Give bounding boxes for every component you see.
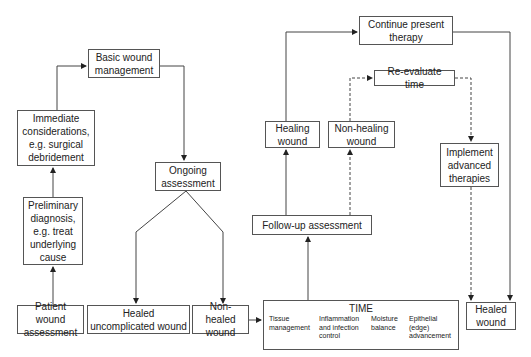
node-healed-uncomplicated-wound: Healed uncomplicated wound <box>87 305 190 334</box>
node-implement-advanced-therapies: Implement advanced therapies <box>440 143 499 187</box>
time-title: TIME <box>264 303 458 315</box>
node-follow-up-assessment: Follow-up assessment <box>252 215 372 235</box>
node-patient-wound-assessment: Patient wound assessment <box>17 305 84 334</box>
node-non-healed-wound: Non-healed wound <box>192 305 249 334</box>
time-item-tissue: Tissue management <box>269 315 313 332</box>
node-ongoing-assessment: Ongoing assessment <box>155 162 221 191</box>
node-re-evaluate-time: Re-evaluate time <box>374 70 455 86</box>
node-healed-wound: Healed wound <box>466 302 516 330</box>
time-framework-box: TIME Tissue management Inflammation and … <box>263 300 459 350</box>
time-item-moisture: Moisture balance <box>371 315 403 332</box>
node-continue-present-therapy: Continue present therapy <box>359 16 453 45</box>
time-item-epithelial: Epithelial (edge) advancement <box>409 315 457 341</box>
node-preliminary-diagnosis: Preliminary diagnosis, e.g. treat underl… <box>23 197 83 265</box>
node-basic-wound-management: Basic wound management <box>88 49 160 78</box>
node-healing-wound: Healing wound <box>265 121 320 148</box>
node-non-healing-wound: Non-healing wound <box>328 121 395 148</box>
time-item-inflammation: Inflammation and infection control <box>319 315 367 341</box>
node-immediate-considerations: Immediate considerations, e.g. surgical … <box>17 110 95 166</box>
